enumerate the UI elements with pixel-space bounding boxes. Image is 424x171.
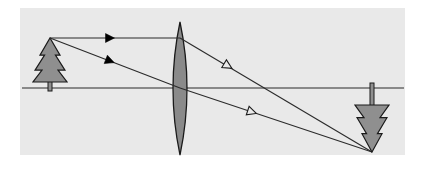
diagram-panel — [20, 8, 405, 155]
diagram-canvas — [0, 0, 424, 171]
ray-diagram-figure: Converging lens ray diagram A thin conve… — [0, 0, 424, 171]
